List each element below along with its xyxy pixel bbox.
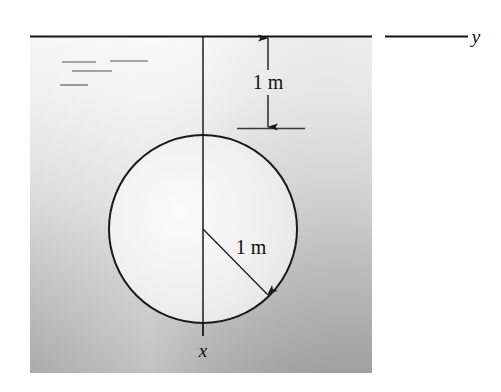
depth-dimension-label: 1 m [253, 71, 284, 93]
radius-dimension-label: 1 m [236, 236, 267, 258]
submerged-plate-diagram: y x 1 m 1 m [0, 0, 501, 392]
x-axis-label: x [198, 340, 208, 361]
figure-root: y x 1 m 1 m [0, 0, 501, 392]
y-axis-label: y [470, 26, 481, 47]
